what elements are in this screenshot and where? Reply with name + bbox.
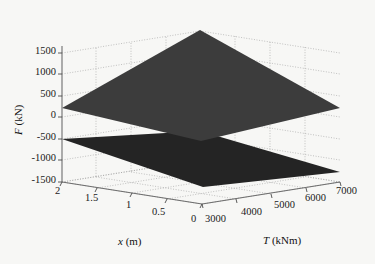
z-tick-label: 500 bbox=[14, 89, 56, 100]
x-axis-title: x (m) bbox=[118, 236, 142, 247]
y-axis-title: T (kNm) bbox=[263, 235, 301, 246]
z-tick-label: 1500 bbox=[14, 46, 56, 57]
z-axis-title-unit: (kN) bbox=[12, 105, 24, 129]
y-tick-label: 7000 bbox=[336, 186, 357, 197]
plot-canvas bbox=[0, 0, 375, 264]
z-tick-label: 1000 bbox=[14, 67, 56, 78]
x-tick-label: 1.5 bbox=[85, 193, 98, 204]
y-tick-label: 3000 bbox=[205, 214, 226, 225]
x-tick-label: 0 bbox=[191, 214, 196, 225]
z-axis-title: F (kN) bbox=[13, 105, 24, 135]
z-tick-label: -1000 bbox=[14, 153, 56, 164]
x-tick-label: 1 bbox=[126, 200, 131, 211]
y-axis-title-unit: (kNm) bbox=[269, 234, 301, 246]
z-axis-title-symbol: F bbox=[12, 128, 24, 135]
z-tick-label: -1500 bbox=[14, 175, 56, 186]
y-tick-label: 4000 bbox=[241, 207, 262, 218]
figure-3d-surface-plot: 1500 1000 500 0 -500 -1000 -1500 2 1.5 1… bbox=[0, 0, 375, 264]
y-tick-label: 6000 bbox=[305, 193, 326, 204]
y-tick-label: 5000 bbox=[274, 200, 295, 211]
x-tick-label: 2 bbox=[55, 186, 60, 197]
x-axis-title-unit: (m) bbox=[123, 235, 142, 247]
x-tick-label: 0.5 bbox=[152, 207, 165, 218]
